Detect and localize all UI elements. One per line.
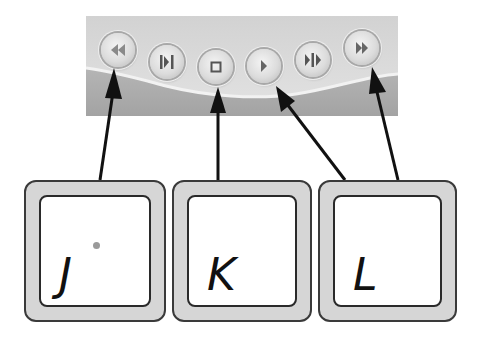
key-k[interactable]: K	[172, 180, 312, 322]
arrow-j-to-rewind	[100, 68, 122, 180]
key-l-face: L	[333, 195, 442, 307]
key-l[interactable]: L	[318, 180, 457, 322]
arrow-l-to-fast-forward	[369, 67, 398, 180]
key-j-dot	[93, 242, 100, 249]
key-l-label: L	[353, 253, 378, 297]
key-k-face: K	[187, 195, 297, 307]
key-j-face: J	[39, 195, 151, 307]
key-j-label: J	[59, 253, 72, 297]
key-k-label: K	[207, 253, 236, 297]
key-j[interactable]: J	[24, 180, 166, 322]
arrow-k-to-stop	[210, 87, 226, 180]
arrow-l-to-play	[276, 86, 345, 180]
